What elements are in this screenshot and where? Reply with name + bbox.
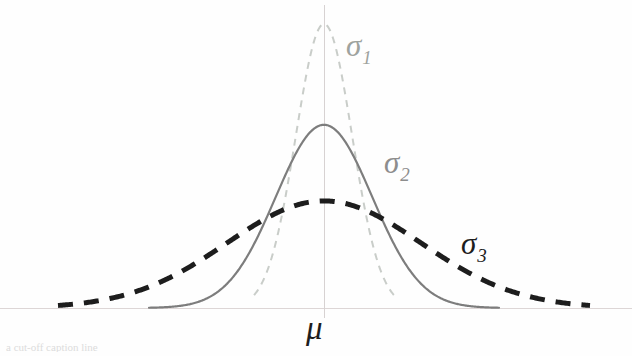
sigma3-label: σ3 — [461, 228, 486, 259]
caption-fragment: a cut-off caption line — [6, 342, 242, 352]
sigma1-symbol: σ — [346, 28, 361, 63]
sigma2-subscript: 2 — [400, 164, 410, 185]
sigma2-label: σ2 — [384, 147, 409, 178]
sigma2-symbol: σ — [384, 145, 399, 180]
plot-canvas — [0, 0, 632, 356]
sigma1-subscript: 1 — [362, 47, 372, 68]
axes-group — [0, 5, 632, 318]
gaussian-distribution-figure: σ1 σ2 σ3 μ a cut-off caption line — [0, 0, 632, 356]
mu-axis-label: μ — [306, 312, 323, 345]
sigma1-label: σ1 — [346, 30, 371, 61]
sigma3-subscript: 3 — [477, 245, 487, 266]
sigma3-symbol: σ — [461, 226, 476, 261]
